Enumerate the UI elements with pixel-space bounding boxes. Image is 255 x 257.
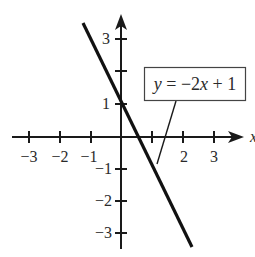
- x-tick-label-neg2: −2: [51, 148, 68, 165]
- x-tick-label-neg3: −3: [20, 148, 37, 165]
- y-tick-label-neg1: −1: [95, 160, 112, 177]
- y-tick-label-neg3: −3: [95, 224, 112, 241]
- plotted-line: [83, 23, 192, 247]
- y-tick-label-neg2: −2: [95, 192, 112, 209]
- x-tick-label-2: 2: [180, 148, 188, 165]
- annotation-pointer: [157, 101, 176, 164]
- graph-canvas: −3 −2 −1 2 3 x 3 1 −1 −2 −3 y = −2x + 1: [0, 0, 255, 257]
- y-axis: [115, 14, 127, 249]
- x-axis: [12, 131, 244, 143]
- x-tick-label-3: 3: [210, 148, 218, 165]
- x-axis-name: x: [249, 128, 255, 145]
- equation-label: y = −2x + 1: [152, 74, 236, 94]
- y-tick-label-3: 3: [102, 30, 110, 47]
- y-tick-label-1: 1: [102, 95, 110, 112]
